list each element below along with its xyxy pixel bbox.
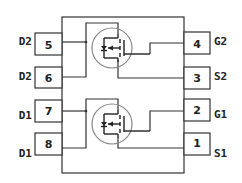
pin-label: S2: [214, 70, 227, 83]
pin-number: 5: [45, 39, 53, 52]
pin-label: D1: [19, 147, 33, 160]
pin-number: 1: [193, 137, 201, 150]
pin-number: 2: [193, 104, 201, 117]
pin-6: 6 D2: [19, 67, 62, 88]
pin-label: D1: [19, 109, 33, 122]
package-outline: [62, 17, 184, 173]
pin-3: 3 S2: [184, 67, 227, 89]
pin-label: D2: [19, 70, 32, 83]
pin-label: G1: [214, 108, 228, 121]
dual-mosfet-pinout-diagram: 5 D2 6 D2 7 D1 8 D1 4 G2 3 S2 2 G1 1 S1: [0, 0, 242, 183]
pin-5: 5 D2: [19, 33, 62, 55]
pin-1: 1 S1: [184, 133, 228, 160]
pin-label: S1: [214, 147, 228, 160]
pin-label: G2: [214, 35, 227, 48]
mosfet-q2-icon: [92, 28, 150, 68]
pin-number: 4: [193, 38, 201, 51]
pin-number: 8: [45, 138, 53, 151]
pin-7: 7 D1: [19, 100, 62, 122]
pin-number: 6: [45, 72, 53, 85]
pin-number: 3: [193, 72, 201, 85]
mosfet-q1-icon: [92, 104, 150, 144]
pin-2: 2 G1: [184, 99, 228, 121]
pin-4: 4 G2: [184, 32, 227, 54]
pin-label: D2: [19, 35, 32, 48]
pin-number: 7: [45, 105, 53, 118]
pin-8: 8 D1: [19, 133, 62, 160]
